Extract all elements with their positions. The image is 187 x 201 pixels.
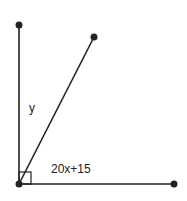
point-right <box>171 181 178 188</box>
angle-diagram: y 20x+15 <box>0 0 187 201</box>
angle-label-20x15: 20x+15 <box>51 162 91 176</box>
point-top <box>16 22 23 29</box>
point-vertex <box>16 181 23 188</box>
angle-label-y: y <box>29 101 35 115</box>
point-diagonal <box>91 34 98 41</box>
